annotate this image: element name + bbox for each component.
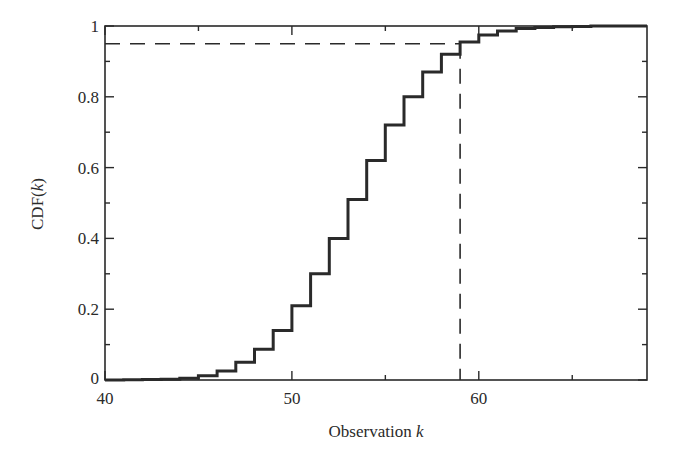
x-tick-label: 50 bbox=[283, 389, 300, 408]
y-tick-label: 0 bbox=[91, 369, 100, 388]
axis-ticks bbox=[105, 26, 647, 380]
x-axis-label: Observation k bbox=[0, 422, 679, 442]
y-tick-label: 0.8 bbox=[78, 88, 99, 107]
x-tick-label: 40 bbox=[97, 389, 114, 408]
y-tick-label: 0.6 bbox=[78, 159, 99, 178]
plot-border bbox=[105, 26, 647, 380]
x-tick-label: 60 bbox=[470, 389, 487, 408]
cdf-step-line bbox=[105, 26, 647, 380]
y-tick-label: 0.2 bbox=[78, 300, 99, 319]
plot-frame bbox=[105, 26, 647, 380]
y-tick-label: 1 bbox=[91, 17, 100, 36]
cdf-chart: 40506000.20.40.60.81 bbox=[0, 0, 679, 458]
axis-tick-labels: 40506000.20.40.60.81 bbox=[78, 17, 488, 408]
y-axis-label: CDF(k) bbox=[28, 178, 48, 230]
y-tick-label: 0.4 bbox=[78, 229, 100, 248]
